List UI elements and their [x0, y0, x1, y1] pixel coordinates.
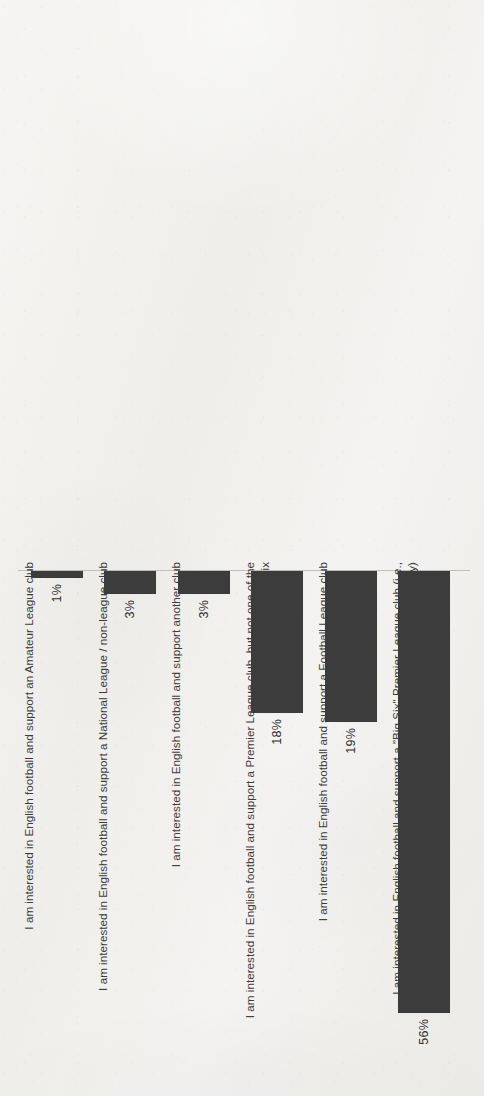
category-label: I am interested in English football and … [169, 562, 239, 1032]
bar-value-label: 1% [50, 584, 64, 602]
bar-value-label: 18% [270, 719, 284, 745]
category-label: I am interested in English football and … [22, 562, 92, 1032]
bar [325, 571, 377, 722]
bar [31, 571, 83, 578]
bar [178, 571, 230, 594]
bar-value-label: 3% [123, 600, 137, 618]
category-label: I am interested in English football and … [96, 562, 166, 1032]
bar [398, 571, 450, 1013]
scanned-chart-page: I am interested in English football and … [0, 0, 484, 1096]
bar [104, 571, 156, 594]
bar-value-label: 19% [344, 728, 358, 754]
bar-value-label: 3% [197, 600, 211, 618]
bar-chart-plot: I am interested in English football and … [0, 0, 484, 1096]
bar [251, 571, 303, 713]
bar-value-label: 56% [417, 1019, 431, 1045]
